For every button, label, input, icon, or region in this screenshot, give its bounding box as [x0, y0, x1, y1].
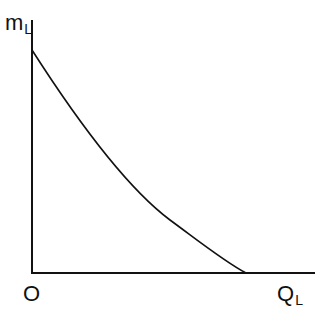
y-axis-label-subscript: L: [24, 21, 32, 37]
y-axis-label-main: m: [5, 10, 23, 35]
origin-label-text: O: [23, 281, 40, 306]
diagram-canvas: [0, 0, 326, 315]
y-axis-label: mL: [5, 12, 32, 36]
x-axis-label-subscript: L: [295, 292, 303, 308]
marginal-curve: [32, 50, 246, 273]
x-axis-label: QL: [277, 283, 303, 307]
x-axis-label-main: Q: [277, 281, 294, 306]
origin-label: O: [23, 283, 40, 305]
